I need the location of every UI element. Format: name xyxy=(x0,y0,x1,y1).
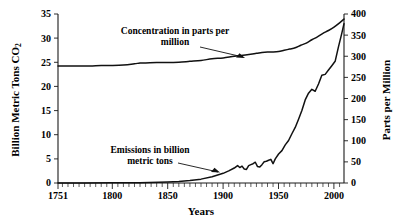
y-axis-left-title-text: Billion Metric Tons CO xyxy=(9,47,21,157)
y-axis-right-ticks xyxy=(344,14,348,183)
y-left-tick-0: 0 xyxy=(46,177,51,188)
y-axis-right-tick-labels: 0 50 100 150 200 250 300 350 400 xyxy=(351,8,366,188)
x-tick-1950: 1950 xyxy=(269,190,289,201)
x-tick-2000: 2000 xyxy=(324,190,344,201)
x-axis-tick-labels: 1751 1800 1850 1900 1950 2000 xyxy=(48,190,344,201)
concentration-annotation-arrow xyxy=(200,47,243,57)
y-left-tick-15: 15 xyxy=(41,105,51,116)
x-tick-1850: 1850 xyxy=(158,190,178,201)
y-left-tick-25: 25 xyxy=(41,57,51,68)
concentration-annotation-line2: million xyxy=(161,37,190,47)
y-axis-right-title: Parts per Million xyxy=(380,60,392,140)
concentration-annotation-line1: Concentration in parts per xyxy=(121,26,230,36)
co2-chart: Billion Metric Tons CO2 Parts per Millio… xyxy=(0,0,405,221)
y-left-tick-20: 20 xyxy=(41,81,51,92)
y-right-tick-150: 150 xyxy=(351,114,366,125)
y-left-tick-10: 10 xyxy=(41,129,51,140)
x-tick-1900: 1900 xyxy=(213,190,233,201)
y-left-tick-30: 30 xyxy=(41,33,51,44)
x-tick-1751: 1751 xyxy=(48,190,68,201)
y-right-tick-350: 350 xyxy=(351,30,366,41)
y-axis-left-title: Billion Metric Tons CO2 xyxy=(9,43,23,157)
y-left-tick-5: 5 xyxy=(46,153,51,164)
y-right-tick-0: 0 xyxy=(351,177,356,188)
emissions-annotation-line2: metric tons xyxy=(127,156,173,166)
x-tick-1800: 1800 xyxy=(102,190,122,201)
y-right-tick-300: 300 xyxy=(351,51,366,62)
concentration-annotation: Concentration in parts per million xyxy=(121,26,245,58)
y-right-tick-100: 100 xyxy=(351,135,366,146)
y-right-tick-200: 200 xyxy=(351,93,366,104)
y-right-tick-400: 400 xyxy=(351,8,366,19)
emissions-annotation-arrowhead xyxy=(211,168,220,173)
y-right-tick-250: 250 xyxy=(351,72,366,83)
y-axis-left-ticks xyxy=(54,14,58,183)
emissions-annotation-line1: Emissions in billion xyxy=(110,145,190,155)
y-left-tick-35: 35 xyxy=(41,8,51,19)
x-axis-title: Years xyxy=(188,205,215,217)
x-axis-major-ticks xyxy=(58,183,334,189)
emissions-annotation: Emissions in billion metric tons xyxy=(110,145,220,173)
y-right-tick-50: 50 xyxy=(351,156,361,167)
y-axis-left-tick-labels: 0 5 10 15 20 25 30 35 xyxy=(41,8,51,188)
chart-container: Billion Metric Tons CO2 Parts per Millio… xyxy=(0,0,405,221)
emissions-annotation-arrow xyxy=(178,163,218,172)
